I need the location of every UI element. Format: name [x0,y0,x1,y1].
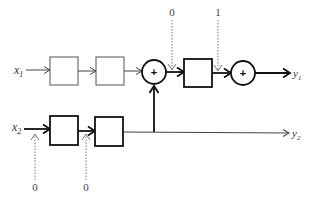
x1-label: x1 [13,63,23,79]
x1-input: x1 [13,63,50,79]
dotted-arrowhead-icon [168,64,176,70]
dotted-input-bottom-0a: 0 [31,134,39,193]
dotted-input-bottom-0b: 0 [82,134,90,193]
block-diagram: x1 + 0 1 + y1 x2 y2 [0,0,311,203]
summer-1: + [142,60,166,84]
plus-icon: + [151,66,157,78]
plus-icon: + [240,67,246,79]
y2-arrow [123,132,289,133]
dotted-input-top-0: 0 [168,6,176,70]
bottom-delay-block-1 [50,116,78,145]
top-delay-block-2 [96,57,124,85]
dotted-value-label: 0 [83,181,89,193]
dotted-value-label: 0 [169,6,175,18]
dotted-value-label: 1 [215,6,221,18]
dotted-value-label: 0 [32,181,38,193]
y1-label: y1 [292,67,301,82]
x2-input: x2 [11,120,50,136]
summer-2: + [231,61,255,85]
top-delay-block-1 [50,57,78,85]
x2-label: x2 [11,120,21,136]
y2-label: y2 [291,127,301,142]
bottom-delay-block-2 [95,117,123,146]
dotted-input-top-1: 1 [214,6,222,71]
top-delay-block-3 [184,59,212,87]
